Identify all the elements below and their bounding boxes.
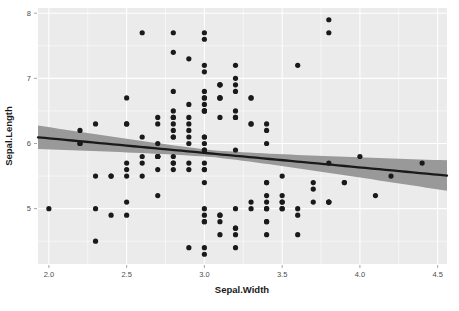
- data-point: [217, 232, 222, 237]
- data-point: [186, 167, 191, 172]
- data-point: [326, 160, 331, 165]
- data-point: [171, 160, 176, 165]
- data-point: [295, 232, 300, 237]
- data-point: [186, 121, 191, 126]
- x-tick-label: 2.5: [121, 270, 131, 279]
- data-point: [186, 102, 191, 107]
- data-point: [311, 200, 316, 205]
- data-point: [295, 63, 300, 68]
- scatter-plot-svg: 2.02.53.03.54.04.5 5678 Sepal.Width Sepa…: [0, 0, 459, 311]
- data-point: [295, 213, 300, 218]
- data-point: [202, 108, 207, 113]
- data-point: [264, 206, 269, 211]
- data-point: [280, 193, 285, 198]
- data-point: [217, 115, 222, 120]
- data-point: [202, 102, 207, 107]
- data-point: [280, 173, 285, 178]
- data-point: [93, 239, 98, 244]
- data-point: [233, 82, 238, 87]
- y-tick-label: 5: [27, 204, 31, 213]
- data-point: [202, 63, 207, 68]
- data-point: [311, 180, 316, 185]
- data-point: [264, 180, 269, 185]
- x-axis-title: Sepal.Width: [215, 284, 269, 295]
- data-point: [171, 108, 176, 113]
- y-tick-label: 7: [27, 74, 31, 83]
- data-point: [233, 245, 238, 250]
- data-point: [233, 206, 238, 211]
- data-point: [202, 37, 207, 42]
- data-point: [140, 173, 145, 178]
- y-axis-title: Sepal.Length: [3, 106, 14, 166]
- data-point: [248, 121, 253, 126]
- data-point: [124, 213, 129, 218]
- data-point: [248, 200, 253, 205]
- data-point: [326, 200, 331, 205]
- data-point: [124, 167, 129, 172]
- data-point: [202, 206, 207, 211]
- data-point: [233, 89, 238, 94]
- data-point: [202, 219, 207, 224]
- data-point: [46, 206, 51, 211]
- data-point: [108, 213, 113, 218]
- data-point: [171, 30, 176, 35]
- x-tick-label: 3.5: [277, 270, 287, 279]
- data-point: [186, 245, 191, 250]
- data-point: [171, 134, 176, 139]
- chart-container: 2.02.53.03.54.04.5 5678 Sepal.Width Sepa…: [0, 0, 459, 311]
- data-point: [124, 200, 129, 205]
- data-point: [264, 121, 269, 126]
- data-point: [140, 134, 145, 139]
- data-point: [264, 219, 269, 224]
- data-point: [171, 167, 176, 172]
- data-point: [186, 115, 191, 120]
- data-point: [264, 193, 269, 198]
- data-point: [202, 89, 207, 94]
- data-point: [171, 89, 176, 94]
- data-point: [357, 154, 362, 159]
- data-point: [202, 167, 207, 172]
- data-point: [202, 213, 207, 218]
- data-point: [93, 206, 98, 211]
- data-point: [233, 147, 238, 152]
- x-tick-label: 3.0: [199, 270, 209, 279]
- data-point: [233, 76, 238, 81]
- x-tick-label: 4.0: [355, 270, 365, 279]
- data-point: [140, 30, 145, 35]
- data-point: [202, 252, 207, 257]
- data-point: [233, 232, 238, 237]
- y-tick-label: 8: [27, 9, 31, 18]
- data-point: [155, 167, 160, 172]
- data-point: [388, 173, 393, 178]
- data-point: [264, 141, 269, 146]
- data-point: [108, 173, 113, 178]
- data-point: [202, 147, 207, 152]
- data-point: [202, 69, 207, 74]
- data-point: [202, 30, 207, 35]
- data-point: [93, 173, 98, 178]
- data-point: [171, 154, 176, 159]
- data-point: [140, 160, 145, 165]
- data-point: [155, 193, 160, 198]
- data-point: [217, 213, 222, 218]
- data-point: [217, 95, 222, 100]
- data-point: [124, 95, 129, 100]
- data-point: [264, 128, 269, 133]
- data-point: [77, 128, 82, 133]
- data-point: [420, 160, 425, 165]
- data-point: [186, 128, 191, 133]
- data-point: [140, 154, 145, 159]
- data-point: [248, 206, 253, 211]
- x-tick-label: 4.5: [432, 270, 442, 279]
- data-point: [202, 160, 207, 165]
- data-point: [155, 141, 160, 146]
- data-point: [295, 206, 300, 211]
- data-point: [77, 141, 82, 146]
- data-point: [202, 245, 207, 250]
- data-point: [202, 141, 207, 146]
- data-point: [342, 180, 347, 185]
- data-point: [217, 82, 222, 87]
- data-point: [124, 121, 129, 126]
- data-point: [233, 63, 238, 68]
- data-point: [326, 30, 331, 35]
